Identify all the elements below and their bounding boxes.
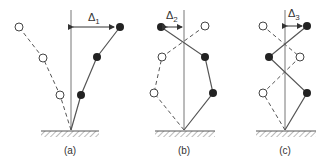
solid-node [303, 89, 311, 97]
solid-node [201, 53, 209, 61]
solid-node [303, 22, 311, 30]
open-node [150, 89, 158, 97]
deformed-shape-dashed [19, 27, 71, 130]
solid-node [93, 53, 101, 61]
panel-label: (b) [178, 145, 190, 156]
delta-label: Δ3 [288, 7, 300, 22]
deformed-shape-dashed [154, 26, 205, 130]
ground-hatch [256, 131, 316, 137]
delta-label: Δ1 [88, 11, 100, 26]
open-node [259, 22, 267, 30]
open-node [15, 23, 23, 31]
open-node [56, 91, 64, 99]
open-node [39, 54, 47, 62]
deformed-shape-solid [161, 27, 213, 130]
panel-label: (a) [64, 145, 76, 156]
solid-node [209, 89, 217, 97]
panel-label: (c) [279, 145, 291, 156]
ground-hatch [155, 131, 215, 137]
deformed-shape-solid [269, 26, 307, 130]
open-node [158, 53, 166, 61]
panel-c: Δ3 (c) [256, 7, 316, 156]
open-node [296, 53, 304, 61]
ground-hatch [41, 131, 99, 137]
solid-node [116, 23, 124, 31]
delta-label: Δ2 [166, 9, 178, 24]
solid-node [265, 53, 273, 61]
open-node [201, 22, 209, 30]
panel-b: Δ2 (b) [150, 9, 217, 156]
panel-a: Δ1 (a) [15, 10, 124, 156]
open-node [259, 89, 267, 97]
deformed-shape-solid [71, 27, 120, 130]
mode-shapes-diagram: Δ1 (a) Δ2 (b) Δ3 (c) [0, 0, 329, 163]
solid-node [77, 91, 85, 99]
solid-node [157, 23, 165, 31]
